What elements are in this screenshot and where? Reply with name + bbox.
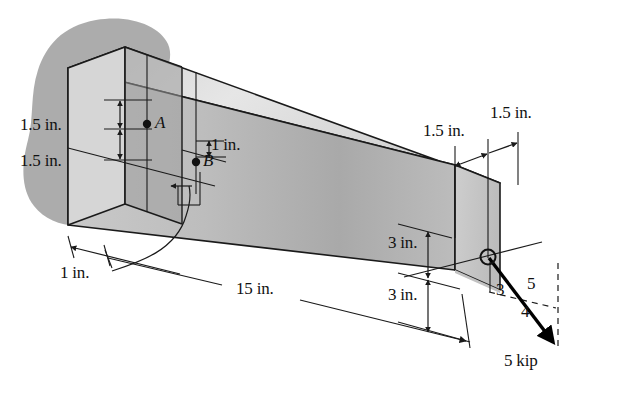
dim-label-length: 15 in. [236, 280, 274, 297]
width-arrow-left [455, 154, 487, 166]
length-dim-line-right [300, 300, 466, 341]
dim-label-left-upper: 1.5 in. [20, 116, 62, 133]
section-face [125, 47, 182, 224]
force-magnitude-label: 5 kip [504, 352, 537, 369]
force-arrow [489, 258, 553, 342]
point-b-dot [192, 158, 200, 166]
dim-label-end-upper: 3 in. [388, 234, 417, 251]
point-label-a: A [155, 114, 165, 131]
diagram-canvas [0, 0, 622, 404]
dim-label-width-right: 1.5 in. [490, 104, 532, 121]
force-triangle-horizontal-label: 4 [521, 303, 530, 320]
dim-label-width-left: 1.5 in. [423, 122, 465, 139]
dim-label-b-offset: 1 in. [211, 136, 240, 153]
point-a-dot [143, 120, 151, 128]
beam-end-face [455, 165, 500, 290]
dim-label-depth-offset: 1 in. [60, 264, 89, 281]
length-dim-line-left [108, 258, 222, 285]
end-dim-ext-bot [398, 322, 470, 342]
beam-left-end-face [68, 47, 125, 225]
force-triangle-vertical-label: 3 [496, 281, 505, 298]
dim-label-left-lower: 1.5 in. [20, 152, 62, 169]
dim-label-end-lower: 3 in. [388, 286, 417, 303]
width-arrow-right [489, 143, 517, 153]
force-triangle-hypotenuse-label: 5 [527, 275, 536, 292]
beam-force-diagram: 1.5 in. 1.5 in. 1 in. 1 in. 15 in. 3 in.… [0, 0, 622, 404]
point-label-b: B [203, 152, 213, 169]
